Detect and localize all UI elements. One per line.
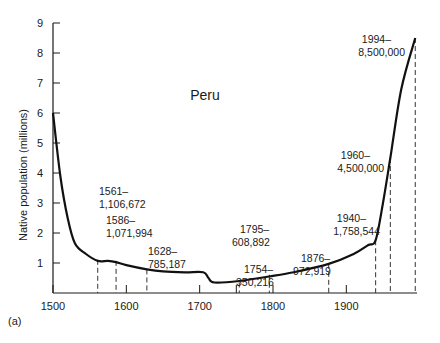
svg-text:1561–: 1561– (99, 185, 128, 197)
svg-text:1754–: 1754– (244, 263, 273, 275)
y-tick-label: 5 (37, 137, 43, 149)
annotation-1561: 1561–1,106,672 (99, 185, 146, 210)
chart-title: Peru (190, 87, 220, 103)
x-tick-label: 1800 (261, 300, 285, 312)
svg-text:1,758,544: 1,758,544 (333, 225, 380, 237)
y-tick-label: 7 (37, 77, 43, 89)
y-tick-label: 2 (37, 227, 43, 239)
svg-text:1,071,994: 1,071,994 (106, 227, 153, 239)
svg-text:1,106,672: 1,106,672 (99, 198, 146, 210)
panel-label: (a) (8, 315, 21, 327)
svg-text:785,187: 785,187 (148, 258, 186, 270)
annotation-1795: 1795–608,892 (232, 223, 270, 248)
y-tick-label: 6 (37, 107, 43, 119)
annotation-1628: 1628–785,187 (148, 245, 186, 270)
annotation-1876: 1876–972,919 (293, 252, 331, 277)
y-axis-label: Native population (millions) (17, 109, 29, 241)
svg-text:4,500,000: 4,500,000 (337, 162, 384, 174)
svg-text:1628–: 1628– (148, 245, 177, 257)
svg-text:350,216: 350,216 (236, 276, 274, 288)
svg-text:1940–: 1940– (337, 212, 366, 224)
y-tick-label: 3 (37, 197, 43, 209)
svg-text:1586–: 1586– (106, 214, 135, 226)
svg-text:1876–: 1876– (301, 252, 330, 264)
svg-text:1994–: 1994– (362, 33, 391, 45)
annotation-1960: 1960–4,500,000 (337, 149, 384, 174)
y-tick-label: 1 (37, 257, 43, 269)
chart: 12345678915001600170018001900 1561–1,106… (0, 0, 440, 343)
svg-text:8,500,000: 8,500,000 (358, 46, 405, 58)
annotation-1994: 1994–8,500,000 (358, 33, 405, 58)
x-tick-label: 1900 (334, 300, 358, 312)
x-tick-label: 1500 (41, 300, 65, 312)
y-tick-label: 8 (37, 47, 43, 59)
svg-text:1795–: 1795– (240, 223, 269, 235)
x-tick-label: 1700 (187, 300, 211, 312)
annotation-1586: 1586–1,071,994 (106, 214, 153, 239)
y-tick-label: 9 (37, 17, 43, 29)
annotation-1940: 1940–1,758,544 (333, 212, 380, 237)
y-tick-label: 4 (37, 167, 43, 179)
x-tick-label: 1600 (114, 300, 138, 312)
svg-text:1960–: 1960– (341, 149, 370, 161)
svg-text:972,919: 972,919 (293, 265, 331, 277)
annotation-1754: 1754–350,216 (236, 263, 274, 288)
svg-text:608,892: 608,892 (232, 236, 270, 248)
